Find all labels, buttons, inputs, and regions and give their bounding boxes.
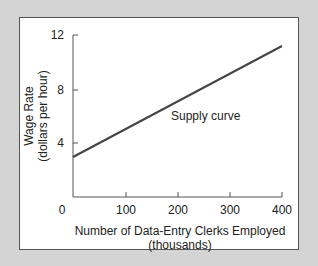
supply-chart: 12 8 4 0 100 200 300 400 Supply curve Nu… — [0, 0, 318, 266]
y-axis-title-line1: Wage Rate — [22, 86, 36, 146]
y-tick-label-4: 4 — [57, 136, 64, 150]
x-tick-label-300: 300 — [220, 203, 240, 217]
supply-curve-line — [73, 46, 282, 157]
x-tick-label-100: 100 — [116, 203, 136, 217]
x-tick-label-400: 400 — [272, 203, 292, 217]
x-axis-title-line2: (thousands) — [148, 238, 211, 252]
x-tick-label-0: 0 — [59, 203, 66, 217]
y-axis-title-line2: (dollars per hour) — [36, 70, 50, 161]
supply-curve-label: Supply curve — [171, 109, 241, 123]
x-tick-label-200: 200 — [168, 203, 188, 217]
y-tick-label-12: 12 — [51, 28, 65, 42]
x-ticks — [126, 192, 282, 197]
y-tick-label-8: 8 — [57, 83, 64, 97]
y-ticks — [73, 35, 78, 143]
x-axis-title-line1: Number of Data-Entry Clerks Employed — [75, 224, 286, 238]
